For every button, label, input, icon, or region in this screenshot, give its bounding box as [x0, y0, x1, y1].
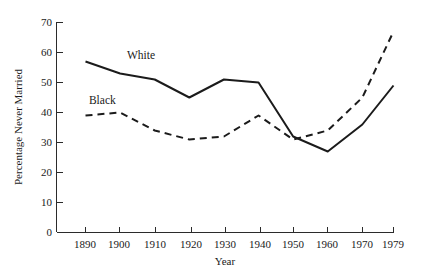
x-axis-ticks: [86, 227, 394, 233]
y-tick-label-20: 20: [41, 166, 53, 178]
x-tick-label-1900: 1900: [108, 238, 131, 250]
y-axis-title: Percentage Never Married: [12, 68, 24, 185]
x-tick-label-1890: 1890: [74, 238, 97, 250]
x-tick-label-1960: 1960: [316, 238, 339, 250]
y-tick-label-10: 10: [41, 196, 53, 208]
x-axis-title: Year: [215, 255, 236, 267]
x-tick-label-1930: 1930: [214, 238, 237, 250]
y-tick-label-30: 30: [41, 136, 53, 148]
y-tick-label-0: 0: [47, 226, 53, 238]
x-tick-label-1979: 1979: [382, 238, 405, 250]
y-tick-label-70: 70: [41, 16, 53, 28]
x-tick-label-1970: 1970: [351, 238, 374, 250]
series-label-black: Black: [89, 94, 116, 106]
x-axis-tick-labels: 1890 1900 1910 1920 1930 1940 1950 1960 …: [74, 238, 405, 250]
line-chart: 0 10 20 30 40 50 60 70 1890 1900 1910: [0, 0, 422, 278]
x-tick-label-1910: 1910: [144, 238, 167, 250]
series-line-white: [86, 62, 394, 152]
x-tick-label-1950: 1950: [282, 238, 305, 250]
series-label-white: White: [127, 49, 155, 61]
y-axis-ticks: [57, 23, 63, 233]
y-axis-tick-labels: 0 10 20 30 40 50 60 70: [41, 16, 53, 238]
chart-canvas: 0 10 20 30 40 50 60 70 1890 1900 1910: [0, 0, 422, 278]
y-tick-label-60: 60: [41, 46, 53, 58]
y-tick-label-40: 40: [41, 106, 53, 118]
x-tick-label-1940: 1940: [249, 238, 272, 250]
x-tick-label-1920: 1920: [180, 238, 203, 250]
y-tick-label-50: 50: [41, 76, 53, 88]
